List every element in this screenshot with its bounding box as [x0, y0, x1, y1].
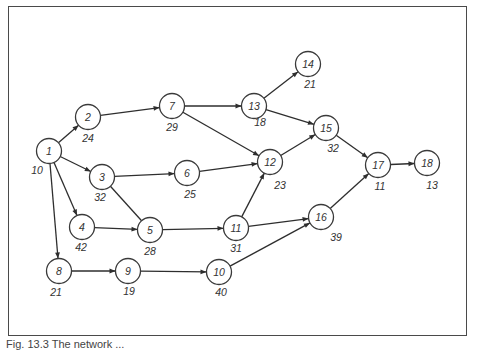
node-7: 729 [160, 94, 185, 134]
node-duration-label: 39 [330, 231, 342, 243]
node-duration-label: 42 [75, 241, 87, 253]
node-2: 224 [76, 105, 101, 145]
node-14: 1421 [296, 52, 321, 91]
node-6: 625 [175, 161, 200, 201]
edge-13-to-15 [266, 110, 314, 125]
edge-7-to-12 [183, 112, 259, 156]
node-duration-label: 32 [94, 191, 106, 203]
edge-1-to-2 [58, 125, 78, 143]
edge-1-to-4 [54, 163, 77, 216]
node-duration-label: 11 [375, 180, 386, 192]
node-id-label: 10 [213, 266, 225, 278]
node-3: 332 [90, 165, 115, 204]
node-12: 1223 [258, 150, 286, 192]
node-5: 528 [138, 218, 163, 258]
node-id-label: 9 [125, 265, 131, 277]
node-duration-label: 40 [215, 286, 227, 298]
node-duration-label: 13 [426, 179, 438, 191]
node-duration-label: 19 [123, 285, 135, 297]
node-duration-label: 10 [31, 164, 43, 176]
node-duration-label: 23 [273, 179, 286, 191]
node-duration-label: 29 [165, 121, 178, 133]
edge-6-to-12 [199, 164, 257, 172]
edge-3-to-5 [110, 186, 141, 220]
edge-12-to-15 [281, 135, 316, 156]
node-id-label: 17 [372, 159, 385, 171]
figure-caption: Fig. 13.3 The network ... [6, 339, 124, 350]
node-10: 1040 [207, 260, 232, 299]
node-id-label: 12 [264, 156, 276, 168]
node-18: 1813 [415, 151, 440, 192]
node-duration-label: 32 [327, 142, 339, 154]
edge-11-to-12 [242, 173, 265, 217]
node-duration-label: 18 [254, 116, 266, 128]
node-17: 1711 [366, 153, 391, 193]
node-13: 1318 [242, 94, 267, 129]
edge-16-to-17 [330, 173, 369, 208]
edge-5-to-11 [163, 228, 224, 229]
node-duration-label: 28 [143, 245, 156, 257]
node-11: 1131 [224, 216, 249, 255]
node-duration-label: 25 [183, 188, 196, 200]
node-id-label: 13 [248, 100, 260, 112]
node-id-label: 6 [184, 167, 190, 179]
edge-9-to-10 [141, 271, 207, 272]
node-id-label: 8 [56, 265, 62, 277]
node-9: 919 [116, 259, 141, 298]
edge-13-to-14 [264, 72, 298, 99]
edge-15-to-17 [336, 135, 368, 158]
edge-4-to-5 [95, 228, 138, 230]
node-id-label: 11 [231, 222, 242, 234]
edge-11-to-16 [248, 219, 308, 227]
node-duration-label: 21 [303, 78, 316, 90]
node-id-label: 16 [315, 211, 327, 223]
node-id-label: 2 [84, 111, 91, 123]
node-id-label: 5 [147, 224, 153, 236]
node-16: 1639 [309, 205, 342, 244]
node-id-label: 15 [320, 122, 332, 134]
node-8: 821 [47, 259, 72, 299]
node-duration-label: 21 [49, 286, 62, 298]
edge-17-to-18 [391, 164, 415, 165]
node-duration-label: 24 [81, 132, 94, 144]
node-id-label: 18 [421, 157, 433, 169]
node-4: 442 [70, 215, 95, 254]
nodes-layer: 1102243324425286257298219191040113112231… [31, 52, 439, 299]
edge-1-to-3 [60, 157, 91, 172]
node-id-label: 1 [46, 145, 52, 157]
edge-1-to-8 [50, 164, 58, 259]
edge-3-to-6 [115, 174, 175, 177]
node-id-label: 4 [79, 221, 85, 233]
node-id-label: 3 [99, 171, 105, 183]
node-duration-label: 31 [230, 242, 242, 254]
node-id-label: 14 [302, 58, 314, 70]
edge-2-to-7 [100, 108, 159, 116]
node-15: 1532 [314, 116, 339, 155]
